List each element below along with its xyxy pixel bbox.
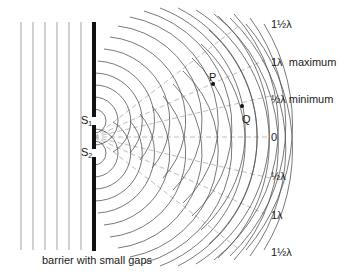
plane-waves: [21, 22, 81, 250]
interference-diagram: [0, 0, 348, 277]
label-1-lambda-maximum: 1λ maximum: [271, 56, 336, 68]
label-zero: 0: [271, 131, 277, 143]
wavefronts-s2: [94, 14, 293, 266]
label-lower-half-lambda: ½λ: [271, 170, 286, 182]
wavefronts-s1: [94, 8, 293, 260]
barrier-caption: barrier with small gaps: [42, 254, 152, 266]
label-half-lambda-minimum: ½λ minimum: [271, 93, 333, 105]
point-q-label: Q: [242, 113, 251, 125]
label-bottom-1-5-lambda: 1½λ: [271, 246, 292, 258]
label-top-1-5-lambda: 1½λ: [271, 18, 292, 30]
path-difference-lines: [94, 25, 270, 250]
point-p-label: P: [209, 71, 216, 83]
source-s2-label: S2: [81, 146, 92, 162]
point-q-marker: [240, 104, 244, 108]
label-lower-1-lambda: 1λ: [271, 209, 283, 221]
barrier: [92, 22, 96, 251]
source-s1-label: S1: [81, 114, 92, 130]
